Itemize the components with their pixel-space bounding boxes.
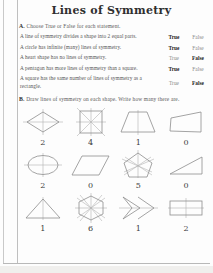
section-b-marker: B. bbox=[19, 96, 25, 102]
pentagon-icon[interactable] bbox=[116, 150, 160, 180]
statement-text: A square has the same number of lines of… bbox=[19, 74, 162, 91]
irregular-quadrilateral-icon[interactable] bbox=[164, 107, 208, 137]
statement-text: A heart shape has no lines of symmetry. bbox=[19, 53, 162, 64]
option-true[interactable]: True bbox=[162, 43, 186, 54]
section-b-instruction-text: Draw lines of symmetry on each shape. Wr… bbox=[26, 96, 179, 102]
shape-answer: 1 bbox=[40, 224, 45, 233]
section-b-instruction: B. Draw lines of symmetry on each shape.… bbox=[19, 96, 210, 102]
rectangle-icon[interactable] bbox=[164, 193, 208, 223]
shape-answer: 6 bbox=[88, 224, 93, 233]
ellipse-icon[interactable] bbox=[21, 150, 65, 180]
shape-cell: 0 bbox=[162, 150, 210, 193]
option-false[interactable]: False bbox=[186, 43, 210, 54]
shape-answer: 0 bbox=[184, 138, 189, 147]
shape-cell: 4 bbox=[67, 107, 115, 150]
table-row: A line of symmetry divides a shape into … bbox=[19, 32, 210, 43]
option-false[interactable]: False bbox=[186, 53, 210, 64]
option-true[interactable]: True bbox=[162, 64, 186, 75]
shape-cell: 1 bbox=[115, 107, 163, 150]
table-row: A heart shape has no lines of symmetry. … bbox=[19, 53, 210, 64]
section-a-instruction: A. Choose True or False for each stateme… bbox=[19, 23, 210, 29]
shape-answer: 5 bbox=[136, 181, 141, 190]
worksheet-content: Lines of Symmetry A. Choose True or Fals… bbox=[19, 0, 210, 263]
shape-cell: 5 bbox=[115, 150, 163, 193]
square-icon[interactable] bbox=[69, 107, 113, 137]
true-false-table: A line of symmetry divides a shape into … bbox=[19, 32, 210, 91]
table-row: A circle has infinite (many) lines of sy… bbox=[19, 43, 210, 54]
shape-answer: 2 bbox=[40, 138, 45, 147]
statement-text: A pentagon has more lines of symmetry th… bbox=[19, 64, 162, 75]
worksheet-page: Lines of Symmetry A. Choose True or Fals… bbox=[0, 0, 213, 273]
option-false[interactable]: False bbox=[186, 64, 210, 75]
shape-cell: 0 bbox=[67, 150, 115, 193]
option-true[interactable]: True bbox=[162, 32, 186, 43]
table-row: A pentagon has more lines of symmetry th… bbox=[19, 64, 210, 75]
shape-answer: 1 bbox=[136, 224, 141, 233]
shape-cell: 2 bbox=[19, 150, 67, 193]
shape-answer: 2 bbox=[184, 224, 189, 233]
trapezoid-icon[interactable] bbox=[116, 107, 160, 137]
shape-answer: 0 bbox=[88, 181, 93, 190]
option-true[interactable]: True bbox=[162, 53, 186, 64]
shape-cell: 2 bbox=[162, 193, 210, 236]
shape-grid: 2 4 bbox=[19, 107, 210, 236]
section-a-marker: A. bbox=[19, 23, 25, 29]
scan-edge-shadow bbox=[0, 266, 213, 273]
table-row: A square has the same number of lines of… bbox=[19, 74, 210, 91]
shape-answer: 2 bbox=[40, 181, 45, 190]
shape-cell: 2 bbox=[19, 107, 67, 150]
statement-text: A line of symmetry divides a shape into … bbox=[19, 32, 162, 43]
section-a-instruction-text: Choose True or False for each statement. bbox=[26, 23, 120, 29]
page-margin-rule-outer bbox=[3, 0, 4, 264]
page-margin-rule-inner bbox=[17, 0, 18, 264]
shape-answer: 4 bbox=[88, 138, 93, 147]
parallelogram-icon[interactable] bbox=[69, 150, 113, 180]
right-triangle-icon[interactable] bbox=[164, 150, 208, 180]
shape-answer: 0 bbox=[184, 181, 189, 190]
chevron-arrow-icon[interactable] bbox=[116, 193, 160, 223]
shape-cell: 1 bbox=[19, 193, 67, 236]
shape-answer: 1 bbox=[136, 138, 141, 147]
shape-cell: 6 bbox=[67, 193, 115, 236]
page-bottom-rule bbox=[3, 263, 210, 264]
option-false[interactable]: False bbox=[186, 32, 210, 43]
page-title: Lines of Symmetry bbox=[19, 0, 210, 17]
shape-cell: 1 bbox=[115, 193, 163, 236]
option-true[interactable]: True bbox=[162, 74, 186, 91]
shape-cell: 0 bbox=[162, 107, 210, 150]
option-false[interactable]: False bbox=[186, 74, 210, 91]
hexagon-icon[interactable] bbox=[69, 193, 113, 223]
statement-text: A circle has infinite (many) lines of sy… bbox=[19, 43, 162, 54]
isosceles-triangle-icon[interactable] bbox=[21, 193, 65, 223]
rhombus-icon[interactable] bbox=[21, 107, 65, 137]
